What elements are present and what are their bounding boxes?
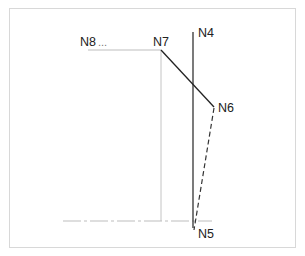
node-diagram: N8 ... N7 N4 N6 N5 <box>0 0 305 256</box>
node-label-n4: N4 <box>198 26 214 40</box>
edge-n6-n5 <box>194 108 214 230</box>
node-label-n5: N5 <box>198 227 214 241</box>
node-label-n7: N7 <box>153 35 169 49</box>
node-label-n8-ellipsis: ... <box>98 36 107 48</box>
node-label-n6: N6 <box>218 101 234 115</box>
edge-n7-n6 <box>161 50 214 107</box>
node-label-n8: N8 <box>80 35 96 49</box>
